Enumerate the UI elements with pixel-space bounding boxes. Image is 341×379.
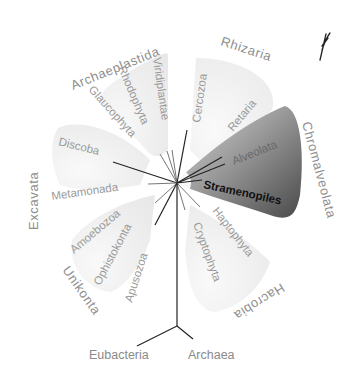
label-rhizaria: Rhizaria bbox=[219, 34, 274, 65]
label-excavata: Excavata bbox=[26, 172, 41, 230]
pen-mark-icon bbox=[320, 33, 330, 60]
phylogenetic-tree-diagram: Archaeplastida Rhizaria Chromalveolata E… bbox=[0, 0, 341, 379]
label-eubacteria: Eubacteria bbox=[89, 348, 149, 362]
label-archaea: Archaea bbox=[188, 348, 235, 362]
label-chromalveolata: Chromalveolata bbox=[299, 120, 339, 220]
